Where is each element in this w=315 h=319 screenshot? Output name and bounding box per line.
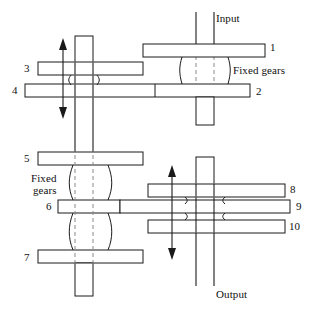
gear-10-body bbox=[148, 220, 285, 233]
right-shift-arrow-head-up bbox=[168, 165, 176, 177]
gear-1-label: 1 bbox=[270, 41, 276, 53]
gear-3-body bbox=[38, 62, 143, 75]
gear-3-label: 3 bbox=[24, 62, 30, 74]
left-layshaft-stub-bottom bbox=[75, 263, 93, 296]
gear-7-label: 7 bbox=[24, 251, 30, 263]
hub-curve-right-9-10 bbox=[223, 213, 225, 220]
fixed-gears-top-label: Fixed gears bbox=[233, 64, 285, 76]
input-label: Input bbox=[216, 12, 240, 24]
gear-9-10-hub bbox=[185, 213, 225, 220]
right-shift-arrow-head-down bbox=[168, 248, 176, 260]
left-layshaft-stub-top bbox=[75, 36, 93, 63]
right-layshaft-stub-top bbox=[196, 157, 214, 185]
gear-8-label: 8 bbox=[290, 183, 296, 195]
gear-8-body bbox=[148, 184, 285, 197]
input-shaft bbox=[196, 12, 214, 45]
output-shaft bbox=[196, 184, 214, 286]
hub-curve-left-9-10 bbox=[185, 213, 187, 220]
hub-curve-left-5-6 bbox=[69, 165, 73, 200]
gear-1-2-hub bbox=[180, 57, 231, 84]
gear-train-diagram: Input Output Fixed gears Fixed gears 1 2… bbox=[0, 0, 315, 319]
hub-curve-left-6-7 bbox=[69, 213, 73, 250]
hub-curve-left-upper-right bbox=[180, 57, 182, 84]
gear-10-label: 10 bbox=[289, 220, 300, 232]
gear-1-body bbox=[143, 44, 265, 57]
output-label: Output bbox=[216, 288, 247, 300]
hub-curve-right-6-7 bbox=[108, 213, 112, 250]
fixed-gears-left-label-line2: gears bbox=[33, 184, 57, 196]
gear-9-body bbox=[120, 200, 290, 213]
left-shift-arrow-head-up bbox=[59, 38, 67, 50]
gear-diagram-canvas bbox=[0, 0, 315, 319]
hub-curve-right-5-6 bbox=[108, 165, 112, 200]
gear-9-label: 9 bbox=[296, 200, 302, 212]
gear-5-label: 5 bbox=[24, 152, 30, 164]
left-shift-arrow bbox=[59, 38, 67, 119]
gear-6-label: 6 bbox=[46, 200, 52, 212]
gear-5-6-hub bbox=[69, 165, 112, 200]
fixed-gears-left-label-line1: Fixed bbox=[31, 172, 57, 184]
gear-2-body bbox=[25, 84, 250, 97]
gear-2-label: 2 bbox=[256, 85, 262, 97]
hub-curve-right-upper-right bbox=[228, 57, 230, 84]
gear-6-7-hub bbox=[69, 213, 112, 250]
gear-4-label: 4 bbox=[12, 84, 18, 96]
input-shaft-stub bbox=[196, 97, 214, 125]
gear-5-body bbox=[38, 152, 143, 165]
gear-7-body bbox=[38, 250, 143, 263]
gear-6-body bbox=[58, 200, 120, 213]
left-shift-arrow-head-down bbox=[59, 107, 67, 119]
